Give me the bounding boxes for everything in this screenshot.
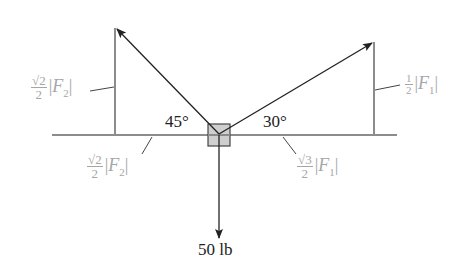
fraction: √3 2 (297, 153, 313, 180)
fraction: √2 2 (31, 74, 47, 101)
magnitude: |F2| (105, 155, 129, 178)
right-horizontal-component-label: √3 2 |F1| (297, 153, 338, 180)
vector-f1-arrow (219, 43, 372, 134)
left-vertical-component-label: √2 2 |F2| (31, 74, 72, 101)
fraction-numerator: √2 (31, 74, 47, 88)
fraction-denominator: 2 (31, 88, 47, 101)
magnitude: |F1| (315, 155, 339, 178)
fraction: √2 2 (87, 153, 103, 180)
angle-label-right: 30° (263, 112, 287, 132)
fraction-numerator: √2 (87, 153, 103, 167)
angle-label-left: 45° (165, 112, 189, 132)
leader-right-horizontal (283, 137, 296, 154)
fraction-numerator: √3 (297, 153, 313, 167)
leader-left-vertical (90, 87, 114, 91)
right-vertical-component-label: 1 2 |F1| (405, 73, 438, 96)
leader-left-horizontal (142, 137, 152, 154)
force-diagram (0, 0, 468, 279)
fraction-denominator: 2 (297, 167, 313, 180)
leader-right-vertical (375, 85, 400, 90)
fraction-denominator: 2 (405, 85, 413, 96)
magnitude: |F1| (415, 73, 439, 96)
fraction: 1 2 (405, 73, 413, 96)
fraction-denominator: 2 (87, 167, 103, 180)
magnitude: |F2| (49, 76, 73, 99)
left-horizontal-component-label: √2 2 |F2| (87, 153, 128, 180)
weight-label: 50 lb (198, 240, 232, 260)
